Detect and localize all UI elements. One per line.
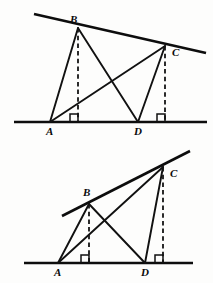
- figure-top-label-D: D: [133, 125, 142, 137]
- figure-top-label-A: A: [45, 125, 53, 137]
- figure-bottom-label-B: B: [82, 186, 90, 198]
- figure-top-label-C: C: [172, 46, 180, 58]
- figure-bottom-label-C: C: [170, 167, 178, 179]
- figure-top-segment-AB: [50, 28, 78, 122]
- figure-bottom-label-D: D: [140, 266, 149, 278]
- figure-top: A B C D: [14, 13, 207, 137]
- geometry-diagram-svg: A B C D A B C D: [0, 0, 213, 283]
- figure-bottom-slant-line: [62, 151, 190, 216]
- figure-top-segment-AC: [50, 46, 165, 122]
- figure-bottom-segment-BD: [89, 204, 145, 263]
- figure-top-segment-BD: [78, 28, 138, 122]
- figure-top-segment-DC: [138, 46, 165, 122]
- figure-top-slant-line: [34, 14, 206, 53]
- figure-bottom: A B C D: [24, 151, 193, 278]
- figure-bottom-segment-AB: [58, 204, 89, 263]
- figure-bottom-label-A: A: [53, 266, 61, 278]
- figure-top-label-B: B: [69, 13, 77, 25]
- geometry-figure-stage: A B C D A B C D: [0, 0, 213, 283]
